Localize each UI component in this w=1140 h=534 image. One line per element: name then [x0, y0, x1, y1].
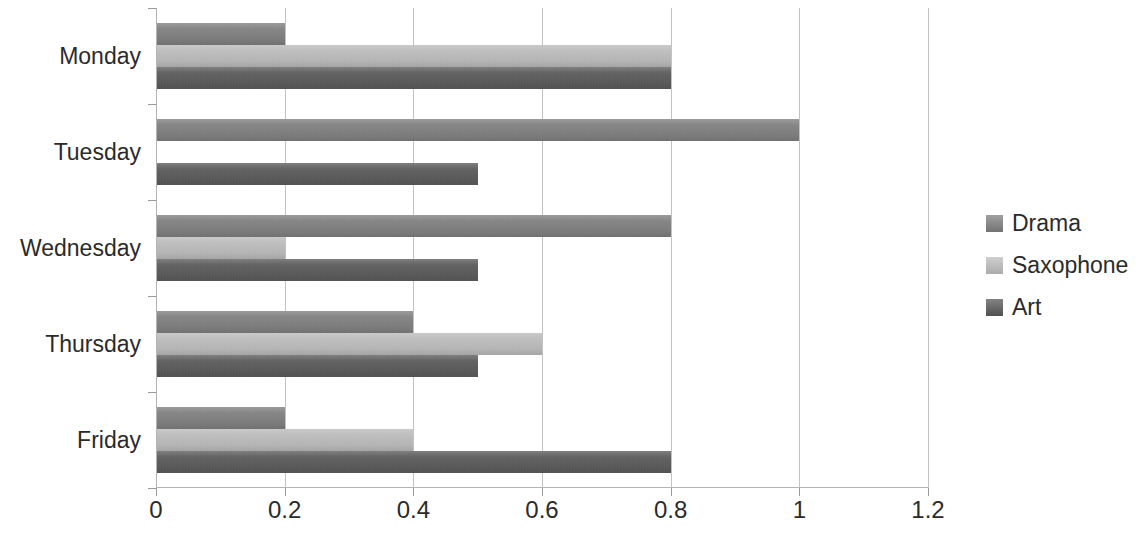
- legend-swatch-icon: [986, 257, 1003, 274]
- y-axis-category-label: Friday: [0, 429, 141, 452]
- bar-chart: DramaSaxophoneArt 00.20.40.60.811.2Monda…: [0, 0, 1140, 534]
- legend-item[interactable]: Art: [986, 286, 1136, 328]
- x-axis-tick: [285, 488, 286, 496]
- bar: [156, 237, 285, 259]
- bar: [156, 311, 413, 333]
- bar: [156, 163, 478, 185]
- bar: [156, 429, 413, 451]
- bar: [156, 45, 671, 67]
- legend-swatch-icon: [986, 215, 1003, 232]
- x-axis-tick-label: 0: [149, 498, 162, 522]
- y-axis-tick: [148, 8, 156, 9]
- bar: [156, 355, 478, 377]
- bar: [156, 215, 671, 237]
- legend-swatch-icon: [986, 299, 1003, 316]
- x-axis-tick: [413, 488, 414, 496]
- x-axis-tick-label: 0.6: [525, 498, 558, 522]
- x-axis-tick: [156, 488, 157, 496]
- legend-item-label: Drama: [1012, 212, 1081, 235]
- x-axis-tick-label: 0.4: [397, 498, 430, 522]
- y-axis-tick: [148, 488, 156, 489]
- y-axis-tick: [148, 104, 156, 105]
- x-axis-line: [156, 487, 928, 488]
- bar: [156, 259, 478, 281]
- legend-item-label: Saxophone: [1012, 254, 1128, 277]
- x-axis-tick: [799, 488, 800, 496]
- chart-legend: DramaSaxophoneArt: [986, 202, 1136, 328]
- plot-area: [156, 8, 928, 488]
- bar: [156, 23, 285, 45]
- y-axis-category-label: Tuesday: [0, 141, 141, 164]
- y-axis-line: [156, 8, 157, 488]
- bar: [156, 407, 285, 429]
- y-axis-tick: [148, 392, 156, 393]
- x-axis-tick-label: 1.2: [911, 498, 944, 522]
- bar: [156, 451, 671, 473]
- x-axis-tick: [542, 488, 543, 496]
- legend-item-label: Art: [1012, 296, 1041, 319]
- x-axis-tick: [671, 488, 672, 496]
- gridline: [799, 8, 800, 488]
- gridline: [928, 8, 929, 488]
- y-axis-category-label: Wednesday: [0, 237, 141, 260]
- legend-item[interactable]: Saxophone: [986, 244, 1136, 286]
- y-axis-category-label: Thursday: [0, 333, 141, 356]
- bar: [156, 67, 671, 89]
- y-axis-tick: [148, 296, 156, 297]
- x-axis-tick-label: 0.2: [268, 498, 301, 522]
- y-axis-category-label: Monday: [0, 45, 141, 68]
- y-axis-tick: [148, 200, 156, 201]
- bar: [156, 119, 799, 141]
- x-axis-tick: [928, 488, 929, 496]
- x-axis-tick-label: 0.8: [654, 498, 687, 522]
- gridline: [671, 8, 672, 488]
- bar: [156, 333, 542, 355]
- legend-item[interactable]: Drama: [986, 202, 1136, 244]
- x-axis-tick-label: 1: [793, 498, 806, 522]
